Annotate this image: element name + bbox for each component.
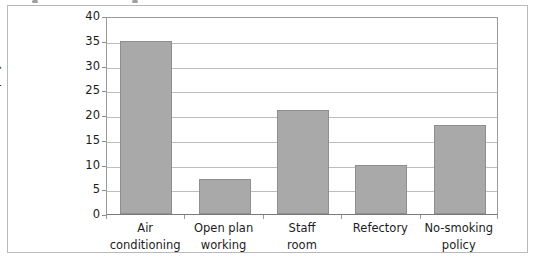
bar-slot: [421, 18, 499, 214]
category-label-line-2: working: [184, 237, 262, 254]
y-axis-tick-label: 15: [60, 135, 100, 147]
x-axis-category-label: Staffroom: [263, 220, 341, 254]
y-axis-tick-label: 30: [60, 61, 100, 73]
category-label-line-2: [341, 237, 419, 254]
x-axis-tick-mark: [106, 215, 107, 219]
x-axis-tick-mark: [263, 215, 264, 219]
bar[interactable]: [277, 110, 329, 214]
bar-slot: [264, 18, 342, 214]
x-axis-category-labels: AirconditioningOpen planworkingStaffroom…: [106, 220, 498, 260]
y-axis-tick-label: 5: [60, 185, 100, 197]
y-axis-tick-label: 10: [60, 160, 100, 172]
category-label-line-2: policy: [420, 237, 498, 254]
y-axis-tick-label: 0: [60, 209, 100, 221]
x-axis-tick-mark: [341, 215, 342, 219]
y-axis-tick-label: 35: [60, 36, 100, 48]
category-label-line-1: No-smoking: [420, 220, 498, 237]
category-label-line-1: Open plan: [184, 220, 262, 237]
bar[interactable]: [434, 125, 486, 214]
chart-figure: Number of employees 4035302520151050 Air…: [0, 0, 548, 261]
x-axis-category-label: Airconditioning: [106, 220, 184, 254]
y-axis-tick-labels: 4035302520151050: [58, 17, 100, 215]
category-label-line-1: Refectory: [341, 220, 419, 237]
x-axis-category-label: No-smokingpolicy: [420, 220, 498, 254]
x-axis-category-label: Open planworking: [184, 220, 262, 254]
scan-blot-right: [132, 0, 138, 3]
bar-slot: [342, 18, 420, 214]
bar[interactable]: [355, 165, 407, 215]
x-axis-tick-mark: [497, 215, 498, 219]
bar-slot: [185, 18, 263, 214]
x-axis-tick-mark: [420, 215, 421, 219]
x-axis-tick-mark: [184, 215, 185, 219]
category-label-line-1: Staff: [263, 220, 341, 237]
scan-artifact: [0, 0, 548, 4]
category-label-line-1: Air: [106, 220, 184, 237]
x-axis-category-label: Refectory: [341, 220, 419, 254]
y-axis-tick-label: 20: [60, 110, 100, 122]
y-axis-tick-label: 40: [60, 11, 100, 23]
category-label-line-2: room: [263, 237, 341, 254]
scan-blot-left: [32, 0, 38, 3]
bar-slot: [107, 18, 185, 214]
plot-area: [106, 17, 498, 215]
y-axis-tick-label: 25: [60, 86, 100, 98]
bar[interactable]: [199, 179, 251, 214]
category-label-line-2: conditioning: [106, 237, 184, 254]
chart-frame: Number of employees 4035302520151050 Air…: [7, 5, 528, 253]
y-axis-title: Number of employees: [0, 6, 4, 206]
bar[interactable]: [120, 41, 172, 214]
